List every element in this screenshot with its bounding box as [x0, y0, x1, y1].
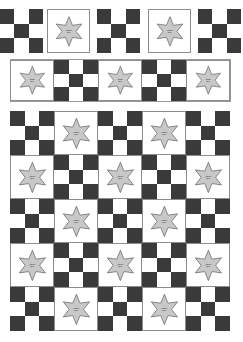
sheriff-star-block: SHERIFF BILLY — [186, 60, 230, 101]
sheriff-star-block: SHERIFF BILLY — [10, 155, 54, 199]
light-square — [227, 24, 241, 39]
dark-square — [10, 199, 25, 214]
dark-square — [39, 140, 54, 155]
nine-patch-block — [198, 9, 241, 53]
nine-patch-block — [98, 287, 142, 331]
dark-square — [198, 38, 212, 53]
badge-text-line1: SHERIFF — [66, 29, 72, 30]
dark-square — [157, 74, 172, 88]
sheriff-star-icon: SHERIFF BILLY — [60, 293, 93, 326]
dark-square — [227, 9, 241, 24]
light-square — [201, 199, 216, 214]
sheriff-star-icon: SHERIFF BILLY — [148, 293, 181, 326]
dark-square — [142, 272, 157, 287]
light-square — [113, 228, 128, 243]
light-square — [69, 87, 84, 101]
dark-square — [126, 38, 140, 53]
dark-square — [10, 287, 25, 302]
light-square — [142, 170, 157, 185]
sheriff-star-block: SHERIFF BILLY — [10, 243, 54, 287]
dark-square — [83, 184, 98, 199]
dark-square — [98, 199, 113, 214]
sheriff-star-block: SHERIFF BILLY — [54, 287, 98, 331]
dark-square — [54, 184, 69, 199]
dark-square — [14, 24, 28, 39]
dark-square — [10, 111, 25, 126]
dark-square — [171, 87, 186, 101]
dark-square — [10, 316, 25, 331]
dark-square — [215, 199, 230, 214]
dark-square — [171, 184, 186, 199]
badge-text-line1: SHERIFF — [117, 175, 123, 176]
light-square — [215, 214, 230, 229]
light-square — [14, 9, 28, 24]
sheriff-star-block: SHERIFF BILLY — [98, 60, 142, 101]
light-square — [113, 111, 128, 126]
light-square — [69, 155, 84, 170]
nine-patch-block — [10, 111, 54, 155]
light-square — [215, 302, 230, 317]
badge-text-line1: SHERIFF — [161, 307, 167, 308]
light-square — [212, 9, 226, 24]
dark-square — [186, 140, 201, 155]
light-square — [10, 126, 25, 141]
dark-square — [69, 74, 84, 88]
light-square — [39, 126, 54, 141]
light-square — [157, 243, 172, 258]
light-square — [157, 60, 172, 74]
dark-square — [212, 24, 226, 39]
badge-text-line1: SHERIFF — [29, 263, 35, 264]
dark-square — [0, 9, 14, 24]
light-square — [201, 111, 216, 126]
dark-square — [54, 87, 69, 101]
light-square — [127, 214, 142, 229]
dark-square — [83, 87, 98, 101]
dark-square — [186, 199, 201, 214]
badge-text-line1: SHERIFF — [73, 131, 79, 132]
dark-square — [54, 155, 69, 170]
dark-square — [186, 316, 201, 331]
dark-square — [215, 140, 230, 155]
dark-square — [98, 287, 113, 302]
sheriff-star-icon: SHERIFF BILLY — [104, 65, 137, 95]
light-square — [0, 24, 14, 39]
dark-square — [215, 316, 230, 331]
dark-square — [127, 228, 142, 243]
light-square — [39, 302, 54, 317]
nine-patch-block — [98, 111, 142, 155]
light-square — [83, 170, 98, 185]
dark-square — [39, 199, 54, 214]
light-square — [201, 316, 216, 331]
dark-square — [126, 9, 140, 24]
nine-patch-block — [10, 199, 54, 243]
light-square — [25, 199, 40, 214]
light-square — [98, 126, 113, 141]
badge-text-line1: SHERIFF — [161, 131, 167, 132]
sheriff-star-icon: SHERIFF BILLY — [16, 65, 49, 95]
light-square — [98, 214, 113, 229]
dark-square — [157, 170, 172, 185]
dark-square — [171, 243, 186, 258]
sheriff-star-block: SHERIFF BILLY — [54, 111, 98, 155]
light-square — [83, 74, 98, 88]
light-square — [39, 214, 54, 229]
dark-square — [83, 243, 98, 258]
dark-square — [186, 111, 201, 126]
light-square — [157, 184, 172, 199]
dark-square — [171, 272, 186, 287]
dark-square — [98, 316, 113, 331]
light-square — [127, 302, 142, 317]
dark-square — [142, 155, 157, 170]
badge-text-line2: BILLY — [162, 310, 166, 311]
dark-square — [171, 155, 186, 170]
dark-square — [83, 272, 98, 287]
dark-square — [0, 38, 14, 53]
badge-text-line1: SHERIFF — [205, 263, 211, 264]
light-square — [25, 111, 40, 126]
nine-patch-block — [54, 243, 98, 287]
sheriff-star-icon: SHERIFF BILLY — [192, 65, 225, 95]
badge-text-line2: BILLY — [206, 81, 210, 82]
badge-text-line1: SHERIFF — [205, 175, 211, 176]
dark-square — [113, 126, 128, 141]
dark-square — [142, 184, 157, 199]
